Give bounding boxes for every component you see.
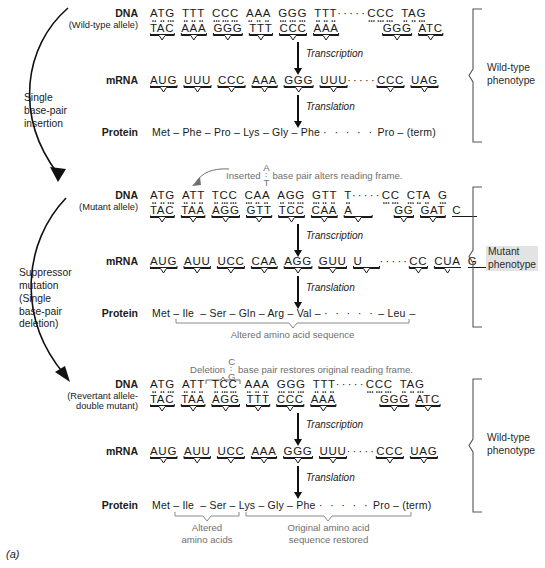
- altered-sequence-brace: [175, 318, 410, 329]
- phenotype-label-mutant: Mutant phenotype: [486, 246, 538, 271]
- amino-acid: Met: [152, 499, 170, 511]
- brace-label-line: Altered: [192, 522, 222, 533]
- row-label-protein-revertant: Protein: [28, 500, 138, 512]
- amino-acid: Ile: [182, 499, 194, 511]
- original-sequence-brace: [245, 511, 412, 522]
- phenotype-line: phenotype: [487, 445, 535, 456]
- amino-acid: Phe: [301, 126, 320, 138]
- amino-acid: Phe: [296, 499, 315, 511]
- altered-amino-acids-label: Altered amino acids: [164, 522, 250, 545]
- altered-amino-acids-brace: [174, 511, 240, 522]
- amino-acid: Lys: [243, 126, 260, 138]
- row-name-mrna: mRNA: [28, 446, 138, 458]
- amino-acid: Ser: [210, 499, 227, 511]
- amino-acid-term: (term): [407, 126, 436, 138]
- amino-acid: Pro: [373, 499, 390, 511]
- side-label-line: insertion: [24, 118, 63, 129]
- amino-acid: Gly: [272, 126, 288, 138]
- suppressor-side-label: Suppressor mutation (Single base-pair de…: [19, 267, 72, 331]
- side-label-line: Single: [24, 92, 53, 103]
- amino-acid: Pro: [377, 126, 394, 138]
- amino-acid: Lys: [239, 499, 256, 511]
- transcription-label-2: Transcription: [306, 230, 363, 241]
- insertion-side-label: Single base-pair insertion: [24, 92, 67, 131]
- altered-sequence-label: Altered amino acid sequence: [175, 329, 410, 341]
- side-label-line: base-pair: [24, 105, 67, 116]
- phenotype-bracket-mutant: [468, 186, 484, 332]
- codon-notch-group-dna-mutant: [150, 215, 450, 224]
- side-label-line: deletion): [19, 318, 59, 329]
- phenotype-bracket-wildtype-2: [468, 378, 484, 517]
- transcription-label-3: Transcription: [306, 419, 363, 430]
- brace-label-line: Original amino acid: [287, 522, 369, 533]
- codon-notch-group-dna-revertant: [150, 404, 450, 413]
- original-sequence-label: Original amino acid sequence restored: [245, 522, 412, 545]
- amino-acid: Met: [152, 126, 170, 138]
- figure-label: (a): [6, 548, 19, 560]
- codon-notch-group-mrna-revertant: [150, 456, 450, 465]
- sequence-ellipsis: · · · · ·: [319, 499, 370, 511]
- protein-sequence-revertant: Met – Ile – Ser – Lys – Gly – Phe · · · …: [152, 499, 431, 511]
- side-label-line: (Single: [19, 293, 51, 304]
- amino-acid: Phe: [182, 126, 201, 138]
- phenotype-bracket-wildtype-1: [468, 8, 484, 147]
- row-name-protein: Protein: [28, 500, 138, 512]
- translation-label-1: Translation: [306, 101, 355, 112]
- codon-notch-group-mrna-wildtype: [150, 85, 450, 94]
- transcription-label-1: Transcription: [306, 48, 363, 59]
- amino-acid: Met: [152, 307, 170, 319]
- side-label-line: base-pair: [19, 306, 62, 317]
- sequence-ellipsis: · · · · ·: [323, 126, 374, 138]
- phenotype-line: Mutant: [488, 246, 519, 257]
- phenotype-line: phenotype: [488, 259, 536, 270]
- phenotype-label-wildtype-2: Wild-type phenotype: [487, 432, 535, 457]
- phenotype-line: Wild-type: [487, 432, 530, 443]
- side-label-line: mutation: [19, 280, 59, 291]
- phenotype-line: Wild-type: [487, 62, 530, 73]
- translation-label-3: Translation: [306, 472, 355, 483]
- codon-notch-group-dna-wildtype: [150, 33, 450, 42]
- codon-notch-group-mrna-mutant: [150, 266, 450, 275]
- protein-sequence-wildtype: Met – Phe – Pro – Lys – Gly – Phe · · · …: [152, 126, 436, 138]
- annotation-suffix: base pair alters reading frame.: [272, 170, 402, 181]
- amino-acid: Gly: [268, 499, 284, 511]
- translation-label-2: Translation: [306, 282, 355, 293]
- amino-acid-term: (term): [402, 499, 431, 511]
- protein-trailing-dash: –: [410, 307, 416, 319]
- side-label-line: Suppressor: [19, 267, 72, 278]
- phenotype-line: phenotype: [487, 75, 535, 86]
- row-label-mrna-revertant: mRNA: [28, 446, 138, 458]
- phenotype-label-wildtype-1: Wild-type phenotype: [487, 62, 535, 87]
- brace-label-line: amino acids: [181, 534, 232, 545]
- brace-label-line: sequence restored: [289, 534, 368, 545]
- amino-acid: Pro: [214, 126, 231, 138]
